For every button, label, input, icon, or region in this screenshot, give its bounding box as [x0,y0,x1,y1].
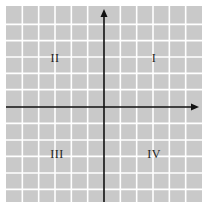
quadrant-label-II: II [51,52,60,64]
quadrant-label-I: I [152,52,157,64]
quadrant-label-III: III [50,148,64,160]
grid-graphic [6,6,202,202]
quadrant-label-IV: IV [147,148,161,160]
coordinate-plane: II I III IV [6,6,202,202]
